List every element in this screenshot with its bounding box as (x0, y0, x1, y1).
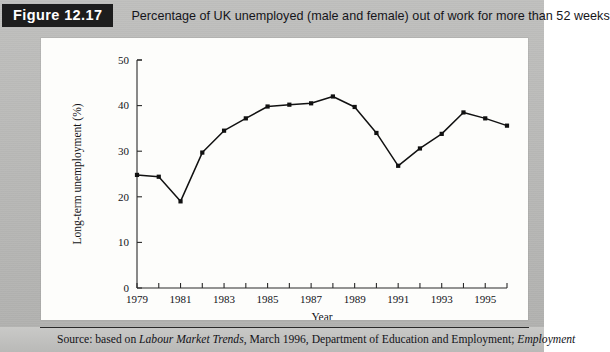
series-line (137, 96, 507, 201)
data-point-marker (396, 164, 400, 168)
data-point-marker (418, 146, 422, 150)
data-point-marker (287, 103, 291, 107)
x-tick-label: 1983 (213, 293, 236, 305)
x-tick-label: 1995 (474, 293, 497, 305)
y-tick-label: 20 (118, 191, 130, 203)
data-point-marker (505, 124, 509, 128)
y-axis-title: Long-term unemployment (%) (71, 103, 84, 244)
data-series (135, 94, 509, 203)
data-point-marker (244, 116, 248, 120)
data-point-marker (135, 173, 139, 177)
y-tick-label: 30 (118, 145, 130, 157)
data-point-marker (353, 105, 357, 109)
chart-panel: 01020304050 1979198119831985198719891991… (41, 38, 528, 320)
x-tick-label: 1989 (344, 293, 367, 305)
y-tick-label: 50 (118, 54, 130, 66)
source-publication-2: Employment (517, 333, 575, 346)
source-caption: Source: based on Labour Market Trends, M… (57, 334, 537, 347)
data-point-marker (157, 175, 161, 179)
y-tick-label: 0 (124, 282, 130, 294)
figure-header: Figure 12.17 Percentage of UK unemployed… (0, 0, 544, 31)
x-axis-title: Year (311, 311, 332, 320)
data-point-marker (178, 199, 182, 203)
figure-caption: Percentage of UK unemployed (male and fe… (131, 9, 609, 23)
source-publication-1: Labour Market Trends (139, 333, 244, 346)
x-tick-label: 1979 (126, 293, 149, 305)
y-tick-label: 40 (118, 99, 130, 111)
x-tick-label: 1985 (257, 293, 280, 305)
data-point-marker (374, 131, 378, 135)
data-point-marker (222, 129, 226, 133)
data-point-marker (309, 101, 313, 105)
data-point-marker (440, 132, 444, 136)
data-point-marker (265, 104, 269, 108)
source-divider (40, 327, 529, 328)
x-tick-label: 1981 (170, 293, 192, 305)
data-point-marker (461, 110, 465, 114)
source-middle: , March 1996, Department of Education an… (244, 333, 518, 346)
x-tick-label: 1987 (300, 293, 323, 305)
y-tick-label: 10 (118, 236, 130, 248)
data-point-marker (483, 116, 487, 120)
x-axis: 197919811983198519871989199119931995 (126, 283, 507, 305)
data-point-marker (200, 150, 204, 154)
x-tick-label: 1993 (431, 293, 454, 305)
data-point-marker (331, 94, 335, 98)
x-tick-label: 1991 (387, 293, 409, 305)
source-prefix: Source: based on (57, 333, 139, 346)
figure-number-badge: Figure 12.17 (2, 4, 113, 28)
line-chart: 01020304050 1979198119831985198719891991… (41, 38, 528, 320)
